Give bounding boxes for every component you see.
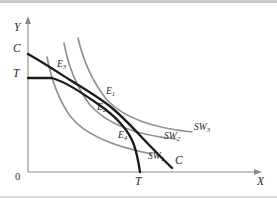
y-intercept-c-label: C: [13, 43, 21, 55]
equilibrium-label-e2: E2: [97, 103, 106, 113]
plot-canvas: [0, 0, 277, 198]
e4-sub: 4: [124, 134, 127, 141]
sw1-base: SW: [148, 151, 161, 161]
c-curve-end-label: C: [175, 155, 183, 167]
economics-diagram-figure: Y X 0 C T T C E1 E2 E3 E4 SW1 SW2 SW3: [0, 0, 277, 198]
y-axis-label: Y: [14, 22, 20, 34]
sw2-curve: [64, 43, 176, 139]
sw3-curve: [78, 38, 192, 132]
e2-sub: 2: [103, 106, 106, 113]
t-curve: [28, 78, 140, 172]
sw1-sub: 1: [161, 155, 164, 162]
y-axis-arrowhead: [25, 16, 31, 24]
sw3-sub: 3: [207, 126, 210, 133]
equilibrium-label-e1: E1: [106, 87, 115, 97]
x-axis-label: X: [257, 176, 264, 188]
sw2-base: SW: [164, 131, 177, 141]
e1-sub: 1: [112, 90, 115, 97]
origin-label: 0: [15, 172, 20, 183]
equilibrium-label-e4: E4: [118, 131, 127, 141]
x-intercept-t-label: T: [135, 176, 141, 188]
sw1-curve-label: SW1: [148, 152, 164, 162]
sw3-curve-label: SW3: [194, 123, 210, 133]
e3-sub: 3: [63, 63, 66, 70]
equilibrium-label-e3: E3: [57, 60, 66, 70]
sw3-base: SW: [194, 122, 207, 132]
y-intercept-t-label: T: [13, 68, 19, 80]
sw2-curve-label: SW2: [164, 132, 180, 142]
sw2-sub: 2: [177, 135, 180, 142]
